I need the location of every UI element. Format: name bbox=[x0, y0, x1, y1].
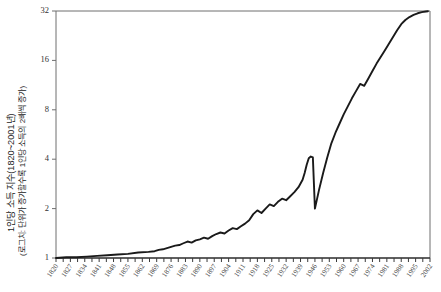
y-tick-label: 8 bbox=[45, 104, 49, 114]
y-tick-label: 2 bbox=[45, 203, 49, 213]
y-tick-label: 32 bbox=[41, 5, 50, 15]
chart-background bbox=[0, 0, 441, 292]
y-tick-label: 1 bbox=[45, 252, 49, 262]
y-tick-label: 16 bbox=[41, 54, 50, 64]
chart-canvas: 1인당 소득 지수(1820~2001년) (로그치: 단위가 증가할수록 1인… bbox=[0, 0, 441, 292]
y-axis-label-sub: (로그치: 단위가 증가할수록 1인당 소득의 2배씩 증가) bbox=[17, 86, 27, 256]
y-axis-label-main: 1인당 소득 지수(1820~2001년) bbox=[6, 113, 16, 232]
income-index-chart: 1인당 소득 지수(1820~2001년) (로그치: 단위가 증가할수록 1인… bbox=[0, 0, 441, 292]
